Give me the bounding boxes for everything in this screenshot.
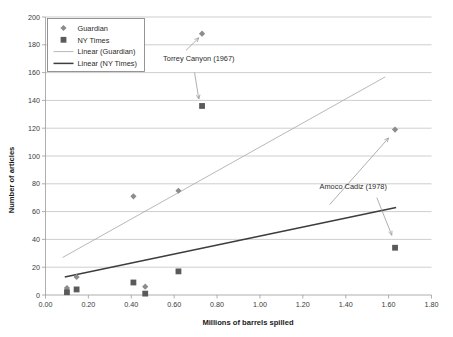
data-point-guardian: [175, 188, 181, 194]
data-point-nytimes: [131, 280, 137, 286]
x-tick-label: 0.20: [81, 300, 95, 309]
x-axis-ticks-group: 0.000.200.400.600.801.001.201.401.601.80: [39, 295, 439, 309]
scatter-plot: 020406080100120140160180200 0.000.200.40…: [0, 0, 453, 337]
annotation-amoco-cadiz-arrow: [330, 138, 389, 205]
data-point-guardian: [392, 126, 398, 132]
y-tick-label: 100: [28, 152, 40, 161]
y-axis-title: Number of articles: [7, 147, 16, 214]
x-tick-label: 0.60: [167, 300, 181, 309]
y-tick-label: 180: [28, 40, 40, 49]
x-tick-label: 0.80: [210, 300, 224, 309]
legend-label: NY Times: [78, 36, 110, 45]
trendline-guardian: [63, 77, 386, 258]
y-tick-label: 80: [32, 179, 40, 188]
y-tick-label: 200: [28, 13, 40, 22]
data-point-guardian: [130, 193, 136, 199]
y-tick-label: 120: [28, 124, 40, 133]
legend-marker-nytimes: [61, 37, 67, 43]
data-point-nytimes: [142, 291, 148, 297]
data-point-guardian: [142, 284, 148, 290]
x-tick-label: 1.80: [425, 300, 439, 309]
y-tick-label: 40: [32, 235, 40, 244]
annotation-torrey-canyon-label: Torrey Canyon (1967): [163, 54, 234, 63]
annotation-amoco-cadiz-arrow: [377, 198, 392, 236]
y-tick-label: 160: [28, 68, 40, 77]
legend-label: Linear (Guardian): [78, 47, 136, 56]
x-tick-label: 0.40: [124, 300, 138, 309]
data-point-nytimes: [392, 245, 398, 251]
chart-container: 020406080100120140160180200 0.000.200.40…: [0, 0, 453, 337]
data-point-nytimes: [176, 268, 182, 274]
trendline-nytimes: [65, 207, 396, 277]
x-tick-label: 1.40: [339, 300, 353, 309]
x-tick-label: 1.20: [296, 300, 310, 309]
y-axis-ticks-group: 020406080100120140160180200: [28, 13, 46, 300]
data-point-nytimes: [64, 289, 70, 295]
data-point-nytimes: [74, 287, 80, 293]
legend-label: Linear (NY Times): [78, 59, 137, 68]
x-axis-title: Millions of barrels spilled: [202, 318, 294, 327]
annotation-amoco-cadiz-label: Amoco Cadiz (1978): [320, 182, 387, 191]
annotation-torrey-canyon-arrow: [186, 38, 199, 51]
annotations-group: Torrey Canyon (1967)Amoco Cadiz (1978): [163, 38, 392, 235]
x-tick-label: 1.60: [382, 300, 396, 309]
y-tick-label: 60: [32, 207, 40, 216]
legend-label: Guardian: [78, 24, 108, 33]
data-point-nytimes: [199, 103, 205, 109]
legend-group: GuardianNY TimesLinear (Guardian)Linear …: [48, 19, 145, 72]
trendlines-group: [63, 77, 396, 277]
y-tick-label: 0: [36, 291, 40, 300]
x-tick-label: 1.00: [253, 300, 267, 309]
y-tick-label: 20: [32, 263, 40, 272]
x-tick-label: 0.00: [39, 300, 53, 309]
data-point-guardian: [199, 31, 205, 37]
y-tick-label: 140: [28, 96, 40, 105]
